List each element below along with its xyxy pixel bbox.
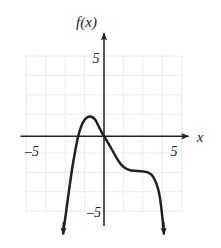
x-tick-label-negative-5: –5 xyxy=(24,144,39,159)
y-tick-label-negative-5: –5 xyxy=(86,205,101,220)
function-label: f(x) xyxy=(76,14,97,31)
graph-canvas: f(x) x –5 5 5 –5 xyxy=(0,0,221,248)
curve-left-end-arrow xyxy=(63,222,64,235)
graph-figure: f(x) x –5 5 5 –5 xyxy=(0,0,221,248)
curve-right-end-arrow xyxy=(163,222,164,235)
x-axis-label: x xyxy=(196,129,204,145)
x-tick-label-positive-5: 5 xyxy=(171,144,178,159)
figure-background xyxy=(0,0,221,248)
y-tick-label-positive-5: 5 xyxy=(93,51,100,66)
